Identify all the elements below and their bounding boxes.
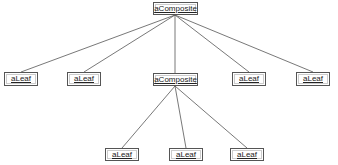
leaf-node: aLeaf <box>296 72 330 86</box>
leaf-node: aLeaf <box>67 72 101 86</box>
root-composite-node: aComposite <box>153 2 198 15</box>
leaf-node: aLeaf <box>230 148 264 161</box>
leaf-node: aLeaf <box>105 148 139 161</box>
leaf-node: aLeaf <box>169 148 203 161</box>
leaf-node: aLeaf <box>4 72 38 86</box>
child-composite-node: aComposite <box>153 73 198 86</box>
leaf-node: aLeaf <box>232 72 266 86</box>
